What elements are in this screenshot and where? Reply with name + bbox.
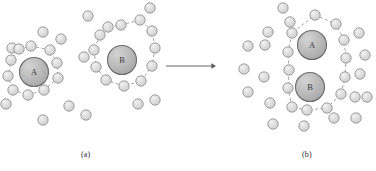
solvent-molecule-shell-b: [101, 75, 111, 85]
solvent-molecule: [285, 17, 295, 27]
solvent-molecule-shell-shared: [302, 105, 312, 115]
solvent-molecule-shell-b: [116, 20, 126, 30]
solvent-molecule: [38, 115, 48, 125]
solvent-molecule: [362, 92, 372, 102]
solvent-molecule-shell-shared: [336, 89, 346, 99]
solvation-diagram: ABAB: [0, 0, 376, 171]
solvent-molecule-shell-b: [147, 26, 157, 36]
panel-label-b: (b): [302, 150, 312, 159]
solvent-molecule-shell-shared: [287, 102, 297, 112]
solvent-molecule-shell-a: [26, 41, 36, 51]
figure-canvas: ABAB: [0, 0, 376, 171]
solvent-molecule: [81, 110, 91, 120]
solvent-molecule: [243, 41, 253, 51]
solvent-molecule-shell-a: [3, 71, 13, 81]
solute-a-panel-b-label: A: [309, 40, 316, 50]
solvent-molecule-shell-shared: [283, 83, 293, 93]
solvent-molecule-shell-b: [150, 43, 160, 53]
solvent-molecule: [329, 113, 339, 123]
solvent-molecule-shell-b: [103, 22, 113, 32]
solvent-molecule-shell-b: [119, 81, 129, 91]
solvent-molecule: [355, 69, 365, 79]
solvent-molecule: [299, 121, 309, 131]
solvent-molecule: [354, 28, 364, 38]
transition-arrow-head: [211, 63, 216, 69]
panel-label-a: (a): [81, 150, 90, 159]
solvent-molecule-shell-shared: [283, 47, 293, 57]
solvent-molecule-shell-b: [147, 61, 157, 71]
solvent-molecule: [278, 3, 288, 13]
solvent-molecule: [38, 27, 48, 37]
solvent-molecule: [239, 64, 249, 74]
solvent-molecule: [1, 99, 11, 109]
solvent-molecule: [263, 27, 273, 37]
solvent-molecule: [265, 98, 275, 108]
solvent-molecule-shell-b: [89, 45, 99, 55]
solvent-molecule: [350, 92, 360, 102]
solute-a-panel-a-label: A: [31, 67, 38, 77]
solvent-molecule-shell-a: [45, 45, 55, 55]
solute-b-panel-a-label: B: [119, 55, 125, 65]
solvent-molecule-shell-shared: [287, 28, 297, 38]
solvent-molecule-shell-a: [39, 85, 49, 95]
solvent-molecule: [243, 87, 253, 97]
solvent-molecule: [133, 99, 143, 109]
solvent-molecule-shell-shared: [339, 35, 349, 45]
solvent-molecule: [145, 3, 155, 13]
solvent-molecule-shell-a: [23, 90, 33, 100]
solvent-molecule-shell-a: [53, 73, 63, 83]
solvent-molecule: [150, 95, 160, 105]
solvent-molecule: [64, 101, 74, 111]
solvent-molecule-shell-a: [52, 58, 62, 68]
solvent-molecule-shell-shared: [322, 103, 332, 113]
solvent-molecule: [360, 50, 370, 60]
solvent-molecule: [83, 11, 93, 21]
solvent-molecule: [56, 34, 66, 44]
solute-b-panel-b-label: B: [307, 82, 313, 92]
solvent-molecule: [259, 72, 269, 82]
solvent-molecule-shell-shared: [340, 72, 350, 82]
solvent-molecule: [351, 113, 361, 123]
solvent-molecule: [79, 52, 89, 62]
solvent-molecule-shell-shared: [331, 19, 341, 29]
solvent-molecule-shell-a: [8, 85, 18, 95]
solvent-molecule: [268, 119, 278, 129]
solvent-molecule-shell-shared: [341, 53, 351, 63]
solvent-molecule-shell-b: [135, 15, 145, 25]
solvent-molecule-shell-b: [91, 62, 101, 72]
solvent-molecule-shell-a: [6, 55, 16, 65]
solvent-molecule: [260, 40, 270, 50]
solvent-molecule-shell-a: [14, 44, 24, 54]
solvent-molecule-shell-b: [95, 30, 105, 40]
solvent-molecule-shell-b: [136, 76, 146, 86]
solvent-molecule-shell-shared: [310, 10, 320, 20]
solvent-molecule-shell-shared: [284, 65, 294, 75]
